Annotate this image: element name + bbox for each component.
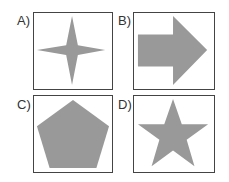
option-c-box [33, 95, 113, 173]
option-d-label: D) [118, 97, 132, 112]
pentagon-icon [34, 96, 112, 172]
option-b-label: B) [118, 13, 131, 28]
option-a-label: A) [17, 13, 30, 28]
option-b-box [133, 12, 215, 90]
option-c-label: C) [17, 97, 31, 112]
right-arrow-icon [134, 13, 214, 89]
five-pointed-star-icon [134, 96, 214, 172]
option-d-box [133, 95, 215, 173]
four-pointed-star-icon [34, 13, 112, 89]
option-a-box [33, 12, 113, 90]
